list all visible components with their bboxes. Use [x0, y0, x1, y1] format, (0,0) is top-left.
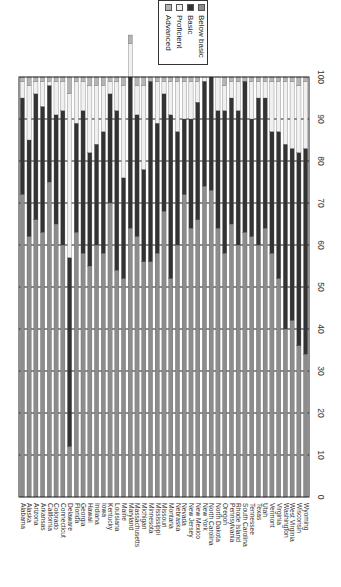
bar-segment — [277, 81, 281, 131]
bar-segment — [290, 81, 294, 148]
bar-segment — [229, 98, 233, 224]
category-label: North Dakota — [215, 503, 222, 542]
bar-segment — [196, 81, 200, 102]
category-label: West Virginia — [288, 503, 296, 542]
category-label: Virginia — [275, 503, 283, 525]
bar-segment — [101, 77, 105, 85]
bar-segment — [148, 81, 152, 262]
bar-segment — [142, 77, 146, 85]
bar-segment — [142, 169, 146, 261]
bar — [209, 77, 213, 497]
category-label: Pennsylvania — [228, 503, 236, 543]
category-label: Texas — [256, 503, 263, 521]
bar-segment — [277, 279, 281, 497]
bar — [283, 77, 287, 497]
bar-segment — [81, 111, 85, 254]
x-tick-label: 70 — [316, 198, 326, 208]
bar-segment — [101, 253, 105, 497]
category-labels: AlabamaAlaskaArizonaArkansasCaliforniaCo… — [20, 503, 310, 548]
bar-segment — [250, 237, 254, 497]
bar-segment — [182, 81, 186, 119]
bar-segment — [263, 77, 267, 81]
x-tick-label: 30 — [316, 366, 326, 376]
bar-segment — [67, 447, 71, 497]
bar-segment — [223, 77, 227, 85]
bar — [304, 77, 308, 497]
category-label: New Jersey — [187, 503, 195, 538]
bar — [148, 77, 152, 497]
bar-segment — [196, 220, 200, 497]
category-label: Massachusetts — [134, 503, 141, 548]
bar — [169, 77, 173, 497]
legend-items: Below basic Basic Proficient Advanced — [159, 1, 209, 66]
bar-segment — [297, 85, 301, 152]
bar-segment — [250, 119, 254, 237]
bar-segment — [121, 178, 125, 279]
bar-segment — [256, 77, 260, 81]
bar — [101, 77, 105, 497]
bar-segment — [135, 115, 139, 237]
bar-segment — [209, 190, 213, 497]
bar-segment — [88, 266, 92, 497]
category-label: Arkansas — [40, 503, 47, 531]
bar-segment — [229, 77, 233, 81]
bar-segment — [94, 144, 98, 245]
category-label: Vermont — [269, 503, 276, 528]
bar-segment — [27, 85, 31, 140]
bar-segment — [189, 81, 193, 119]
category-label: Nevada — [181, 503, 188, 526]
category-label: Hawaii — [87, 503, 94, 523]
bar-segment — [88, 153, 92, 266]
bar-segment — [47, 85, 51, 182]
legend-swatch-below-basic — [198, 4, 205, 11]
bar-segment — [169, 77, 173, 81]
bar-segment — [175, 245, 179, 497]
bar-segment — [121, 85, 125, 177]
bar-segment — [290, 321, 294, 497]
bar-segment — [277, 132, 281, 279]
bar-segment — [81, 81, 85, 110]
bar — [115, 77, 119, 497]
x-tick-label: 10 — [316, 450, 326, 460]
bar-segment — [20, 81, 24, 98]
bar-segment — [67, 258, 71, 447]
bar-segment — [175, 77, 179, 81]
bar-segment — [115, 81, 119, 110]
bar-segment — [94, 77, 98, 85]
bar — [182, 77, 186, 497]
bar — [61, 77, 65, 497]
bar-segment — [202, 81, 206, 186]
category-label: New York — [202, 503, 209, 532]
bar-segment — [297, 346, 301, 497]
bar-segment — [223, 85, 227, 110]
bar-segment — [250, 81, 254, 119]
bar-segment — [54, 77, 58, 81]
bar-segment — [121, 279, 125, 497]
bar — [202, 77, 206, 497]
category-label: Tennessee — [249, 503, 256, 535]
category-label: Michigan — [140, 503, 148, 530]
bar-segment — [115, 77, 119, 81]
bar-segment — [34, 220, 38, 497]
bar — [229, 77, 233, 497]
bar-segment — [88, 77, 92, 85]
bar-segment — [304, 81, 308, 148]
bar-segment — [121, 77, 125, 85]
category-label: Connecticut — [60, 503, 67, 538]
category-label: Iowa — [101, 503, 108, 517]
legend-swatch-advanced — [165, 4, 172, 11]
bar-segment — [54, 81, 58, 115]
bar — [189, 77, 193, 497]
legend-item-proficient: Proficient — [174, 4, 185, 63]
bar — [196, 77, 200, 497]
category-label: California — [47, 503, 54, 531]
bar — [20, 77, 24, 497]
bar-segment — [88, 85, 92, 152]
bar-segment — [162, 81, 166, 94]
stacked-bar-chart: 0102030405060708090100 AlabamaAlaskaAriz… — [0, 0, 341, 587]
bar-segment — [108, 203, 112, 497]
bar — [162, 77, 166, 497]
bar-segment — [196, 102, 200, 220]
bar-segment — [67, 77, 71, 94]
category-label: Mississippi — [154, 503, 162, 535]
